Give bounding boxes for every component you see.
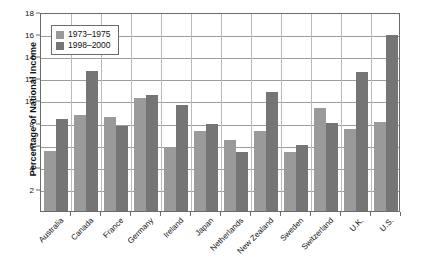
y-tick-label: 8 xyxy=(30,119,34,128)
bar-group xyxy=(281,14,311,211)
x-tick-mark xyxy=(400,212,401,216)
bar xyxy=(314,108,326,211)
legend-label-1973: 1973–1975 xyxy=(68,29,111,40)
legend-label-1998: 1998–2000 xyxy=(68,40,111,51)
y-axis-ticks: 24681012141618 xyxy=(0,13,40,212)
bar xyxy=(374,122,386,211)
group-separator xyxy=(191,14,192,211)
x-axis-labels: AustraliaCanadaFranceGermanyIrelandJapan… xyxy=(40,212,400,274)
x-tick-mark xyxy=(220,212,221,216)
bar xyxy=(236,152,248,211)
bar xyxy=(386,35,398,211)
y-tick-label: 4 xyxy=(30,163,34,172)
bar-group xyxy=(131,14,161,211)
legend-swatch-icon-1998 xyxy=(56,42,64,50)
x-tick-mark xyxy=(280,212,281,216)
y-tick-label: 6 xyxy=(30,141,34,150)
x-tick-mark xyxy=(190,212,191,216)
y-tick-label: 14 xyxy=(25,53,34,62)
group-separator xyxy=(131,14,132,211)
y-tick-label: 16 xyxy=(25,31,34,40)
legend-swatch-icon-1973 xyxy=(56,31,64,39)
bar xyxy=(74,115,86,211)
group-separator xyxy=(161,14,162,211)
x-tick-label: Australia xyxy=(0,216,65,274)
bar xyxy=(134,98,146,211)
bar xyxy=(224,140,236,211)
bar xyxy=(116,126,128,211)
legend-item-1973: 1973–1975 xyxy=(56,29,111,40)
y-tick-label: 18 xyxy=(25,9,34,18)
y-tick-label: 2 xyxy=(30,185,34,194)
bar-group xyxy=(371,14,401,211)
group-separator xyxy=(371,14,372,211)
x-tick-mark xyxy=(70,212,71,216)
x-tick-mark xyxy=(370,212,371,216)
legend: 1973–1975 1998–2000 xyxy=(51,25,119,55)
bar xyxy=(326,123,338,211)
group-separator xyxy=(341,14,342,211)
y-tick-label: 12 xyxy=(25,75,34,84)
x-tick-mark xyxy=(130,212,131,216)
group-separator xyxy=(221,14,222,211)
legend-item-1998: 1998–2000 xyxy=(56,40,111,51)
bar-group xyxy=(161,14,191,211)
group-separator xyxy=(251,14,252,211)
bar-group xyxy=(221,14,251,211)
bar-group xyxy=(251,14,281,211)
bar xyxy=(176,105,188,211)
bar-group xyxy=(341,14,371,211)
bar xyxy=(56,119,68,211)
bar xyxy=(146,95,158,211)
bar xyxy=(86,71,98,211)
bar xyxy=(254,131,266,211)
x-tick-mark xyxy=(160,212,161,216)
bar xyxy=(104,117,116,211)
bar xyxy=(164,147,176,211)
group-separator xyxy=(281,14,282,211)
x-tick-mark xyxy=(100,212,101,216)
bar-chart: Percentage of National Income 2468101214… xyxy=(0,0,421,274)
bar xyxy=(356,72,368,211)
bar xyxy=(284,152,296,211)
x-tick-mark xyxy=(340,212,341,216)
group-separator xyxy=(311,14,312,211)
bar-group xyxy=(191,14,221,211)
x-tick-mark xyxy=(250,212,251,216)
bar xyxy=(44,151,56,211)
y-tick-label: 10 xyxy=(25,97,34,106)
bar xyxy=(344,129,356,211)
bar xyxy=(296,145,308,211)
bar xyxy=(194,131,206,211)
x-tick-mark xyxy=(310,212,311,216)
bar xyxy=(266,92,278,211)
bar xyxy=(206,124,218,211)
bar-group xyxy=(311,14,341,211)
